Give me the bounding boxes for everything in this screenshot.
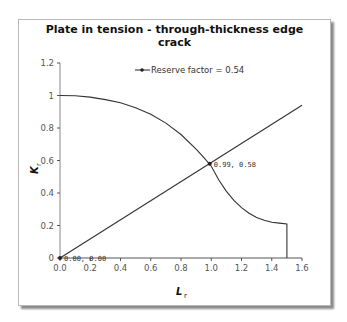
x-tick-label: 0.8: [174, 263, 188, 273]
x-axis-title-main: L: [176, 286, 182, 297]
x-tick-label: 1.6: [295, 263, 309, 273]
x-tick-label: 0.6: [144, 263, 158, 273]
x-axis-title-sub: r: [184, 292, 187, 300]
y-tick-label: 0.4: [40, 188, 54, 198]
x-tick-label: 0.0: [53, 263, 67, 273]
x-tick-label: 1.4: [265, 263, 279, 273]
reserve-factor-line: [60, 105, 302, 258]
x-tick-label: 0.4: [114, 263, 128, 273]
y-axis-title-sub: r: [35, 163, 43, 166]
fad-curve: [60, 96, 287, 259]
y-tick-label: 1.2: [40, 58, 54, 68]
axes: 0.00.20.40.60.81.01.21.41.600.20.40.60.8…: [40, 58, 308, 273]
plot-area: 0.00.20.40.60.81.01.21.41.600.20.40.60.8…: [0, 0, 347, 322]
data-point-label: 0.99, 0.58: [214, 161, 256, 169]
x-tick-label: 1.2: [235, 263, 249, 273]
x-tick-label: 1.0: [204, 263, 218, 273]
legend-entry: Reserve factor = 0.54: [151, 65, 244, 75]
y-axis-title: K r: [29, 163, 43, 174]
data-point-marker-icon: [58, 256, 62, 260]
y-tick-label: 0.8: [40, 123, 54, 133]
legend: Reserve factor = 0.54: [135, 65, 244, 75]
x-tick-label: 0.2: [83, 263, 97, 273]
data-point-label: 0.00, 0.00: [64, 255, 106, 263]
data-point-marker-icon: [208, 162, 212, 166]
legend-marker-icon: [140, 68, 144, 72]
y-tick-label: 0.2: [40, 221, 54, 231]
y-tick-label: 1: [49, 91, 54, 101]
y-tick-label: 0: [49, 253, 54, 263]
series-layer: 0.00, 0.000.99, 0.58: [58, 96, 302, 264]
x-axis-title: L r: [176, 286, 187, 300]
